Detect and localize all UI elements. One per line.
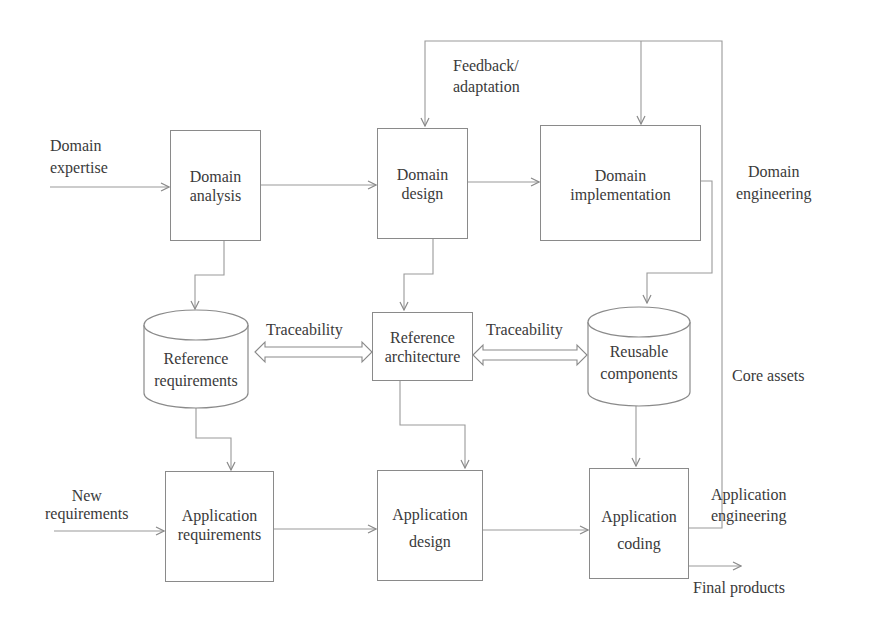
label-traceability-left: Traceability xyxy=(266,320,343,339)
node-application-design: Applicationdesign xyxy=(377,470,483,581)
node-reference-architecture: Referencearchitecture xyxy=(372,312,473,381)
edge-feedback-loop xyxy=(425,41,722,528)
label-domain-engineering: Domain engineering xyxy=(736,161,812,205)
label-final-products: Final products xyxy=(693,578,785,597)
node-application-coding: Applicationcoding xyxy=(589,468,689,579)
label-core-assets: Core assets xyxy=(732,366,804,385)
label-application-engineering: Application engineering xyxy=(711,484,787,526)
label-feedback-adaptation: Feedback/ adaptation xyxy=(453,55,520,97)
label-domain-expertise: Domain expertise xyxy=(50,135,108,179)
node-reusable-components: Reusablecomponents xyxy=(588,338,690,388)
edge-refreq-to-appreq xyxy=(196,408,231,470)
traceability-arrow-left xyxy=(255,342,372,362)
edge-analysis-to-refreq xyxy=(195,240,224,309)
node-domain-analysis: Domainanalysis xyxy=(170,130,261,241)
node-domain-implementation: Domainimplementation xyxy=(540,125,701,241)
label-traceability-right: Traceability xyxy=(486,320,563,339)
node-domain-design: Domaindesign xyxy=(377,128,468,239)
edge-design-to-refarch xyxy=(404,238,433,310)
traceability-arrow-right xyxy=(473,345,587,365)
label-new-requirements: New requirements xyxy=(45,487,129,523)
edge-refarch-to-appdesign xyxy=(400,380,465,468)
node-application-requirements: Applicationrequirements xyxy=(165,471,274,582)
node-reference-requirements: Referencerequirements xyxy=(144,340,248,400)
